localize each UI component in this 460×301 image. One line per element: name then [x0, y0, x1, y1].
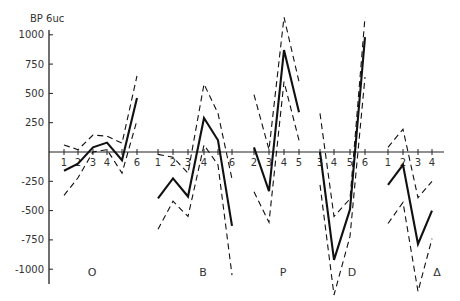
- y-axis-title: BP 6uc: [30, 13, 64, 24]
- series-lower-4: [388, 202, 432, 291]
- series-upper-4: [388, 129, 432, 198]
- y-tick-label: 500: [25, 88, 44, 99]
- x-tick-label: 3: [415, 157, 421, 168]
- group-label: P: [280, 266, 287, 279]
- group-label: O: [88, 266, 97, 279]
- y-axis: BP 6uc1000750500250-250-500-750-1000: [15, 13, 64, 284]
- x-tick-label: 6: [134, 157, 140, 168]
- x-tick-label: 4: [281, 157, 287, 168]
- chart: BP 6uc1000750500250-250-500-750-1000 123…: [0, 0, 460, 301]
- x-tick-label: 3: [90, 157, 96, 168]
- y-tick-label: 750: [25, 59, 44, 70]
- y-tick-label: -1000: [15, 264, 44, 275]
- group-labels: OBPDΔ: [88, 266, 442, 279]
- x-tick-label: 1: [61, 157, 67, 168]
- x-tick-label: 4: [201, 157, 207, 168]
- y-tick-label: 250: [25, 117, 44, 128]
- x-axis: 1234612346234534561234: [49, 149, 444, 168]
- plot-area: [64, 17, 432, 295]
- series-mean-2: [254, 50, 299, 191]
- x-tick-label: 2: [251, 157, 257, 168]
- x-tick-label: 4: [429, 157, 435, 168]
- series-upper-0: [64, 76, 137, 150]
- x-tick-label: 4: [104, 157, 110, 168]
- group-label: B: [199, 266, 207, 279]
- y-tick-label: -750: [21, 234, 44, 245]
- x-tick-label: 2: [170, 157, 176, 168]
- series-mean-4: [388, 165, 432, 244]
- x-tick-label: 6: [362, 157, 368, 168]
- group-label: Δ: [433, 266, 441, 279]
- y-tick-label: -500: [21, 205, 44, 216]
- x-tick-label: 5: [296, 157, 302, 168]
- y-tick-label: 1000: [19, 29, 44, 40]
- x-tick-label: 1: [155, 157, 161, 168]
- y-tick-label: -250: [21, 176, 44, 187]
- x-tick-label: 1: [385, 157, 391, 168]
- x-tick-label: 4: [331, 157, 337, 168]
- group-label: D: [348, 266, 356, 279]
